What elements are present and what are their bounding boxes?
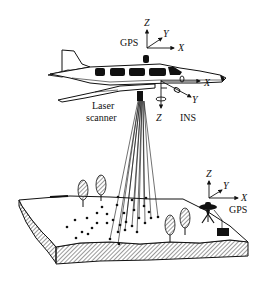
laser-scanner-label-line1: Laser <box>92 100 115 111</box>
aircraft-gps-x-label: X <box>177 42 185 53</box>
aircraft-gps-z-label: Z <box>144 17 150 28</box>
ins-x-label: X <box>203 77 211 88</box>
aircraft-gps-y-label: Y <box>163 28 170 39</box>
ground-gps-x-label: X <box>240 192 248 203</box>
ground-gps-y-label: Y <box>223 180 230 191</box>
laser-scanner-label-line2: scanner <box>86 112 117 123</box>
aircraft-gps-label: GPS <box>120 37 138 48</box>
ins-z-label: Z <box>156 112 162 123</box>
ground-gps-label: GPS <box>229 204 247 215</box>
aircraft <box>48 50 226 102</box>
ground-gps-z-label: Z <box>206 168 212 179</box>
aircraft-gps-antenna <box>143 55 149 63</box>
laser-scanner <box>137 91 143 101</box>
ins-y-label: Y <box>192 94 199 105</box>
aircraft-gps-axes <box>147 30 174 48</box>
ins-label: INS <box>180 112 196 123</box>
lidar-diagram: Z Y X GPS X Y Z INS Laser scanner Z Y X … <box>0 0 266 288</box>
ground-gps-recorder-box <box>217 228 229 236</box>
